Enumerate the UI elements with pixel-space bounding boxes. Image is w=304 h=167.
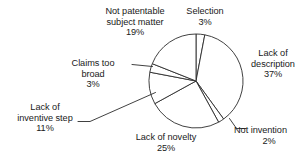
slice-value: 2% (234, 136, 304, 147)
slice-label-lack-of-inventive-step: Lack of inventive step 11% (2, 102, 88, 134)
pie-chart-figure: Not patentable subject matter 19% Select… (0, 0, 304, 167)
slice-value: 37% (242, 69, 304, 80)
slice-value: 25% (122, 143, 210, 154)
slice-label-line: subject matter (86, 17, 184, 28)
slice-label-line: Claims too (54, 58, 132, 69)
slice-label-line: Not invention (234, 125, 304, 136)
slice-label-line: Not patentable (86, 6, 184, 17)
slice-label-lack-of-novelty: Lack of novelty 25% (122, 132, 210, 153)
slice-label-selection: Selection 3% (172, 6, 238, 27)
slice-label-line: Lack of novelty (122, 132, 210, 143)
slice-label-claims-too-broad: Claims too broad 3% (54, 58, 132, 90)
slice-label-line: Lack of (2, 102, 88, 113)
slice-value: 3% (172, 17, 238, 28)
slice-label-line: inventive step (2, 113, 88, 124)
slice-label-not-patentable-subject-matter: Not patentable subject matter 19% (86, 6, 184, 38)
slice-label-line: Lack of (242, 48, 304, 59)
leader-line-claims-too-broad (132, 65, 153, 67)
slice-label-line: description (242, 59, 304, 70)
slice-value: 11% (2, 123, 88, 134)
slice-label-lack-of-description: Lack of description 37% (242, 48, 304, 80)
slice-value: 19% (86, 27, 184, 38)
slice-label-line: Selection (172, 6, 238, 17)
slice-value: 3% (54, 79, 132, 90)
slice-label-not-invention: Not invention 2% (234, 125, 304, 146)
slice-label-line: broad (54, 69, 132, 80)
leader-line-inventive-step (78, 93, 156, 122)
pie-slices-group (149, 34, 243, 128)
